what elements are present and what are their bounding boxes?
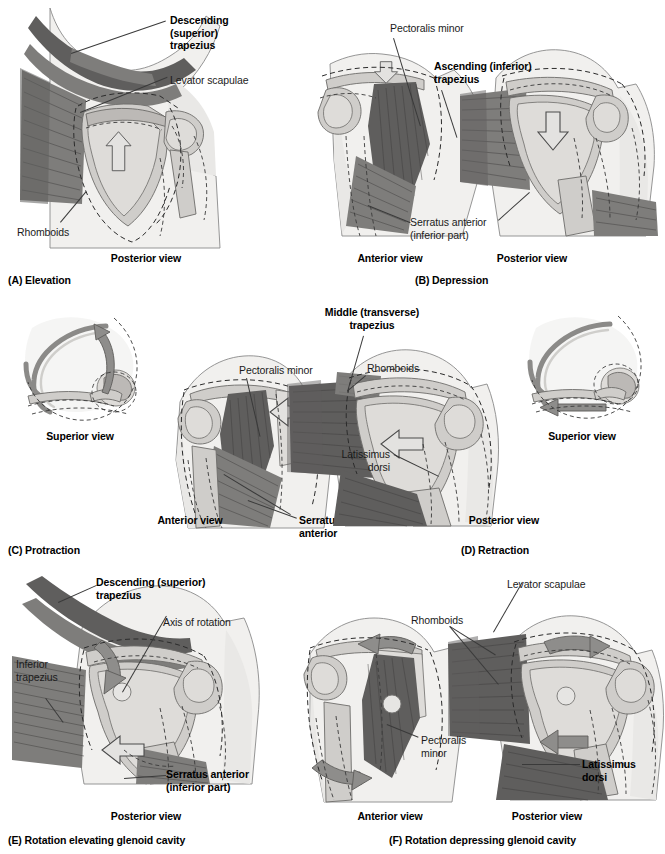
- axis-of-rotation-marker-f-anterior: [383, 695, 401, 713]
- caption-panel-d: (D) Retraction: [461, 544, 529, 556]
- label-axis-of-rotation: Axis of rotation: [163, 616, 231, 629]
- panel-b-depression: Pectoralis minor Ascending (inferior) tr…: [332, 0, 665, 292]
- view-label-posterior-d: Posterior view: [444, 514, 564, 526]
- label-descending-superior-trapezius: Descending (superior) trapezius: [170, 14, 229, 52]
- view-label-posterior-f: Posterior view: [487, 810, 607, 822]
- label-middle-transverse-trapezius: Middle (transverse) trapezius: [272, 306, 472, 331]
- label-inferior-trapezius: Inferior trapezius: [16, 658, 58, 683]
- label-latissimus-dorsi-f: Latissimus dorsi: [582, 758, 636, 783]
- view-label-superior-d: Superior view: [522, 430, 642, 442]
- leader-latissimus-dorsi-f: [522, 764, 580, 765]
- label-rhomboids-f: Rhomboids: [411, 614, 463, 627]
- anatomy-figure: Descending (superior) trapezius Levator …: [0, 0, 665, 854]
- view-label-posterior-a: Posterior view: [86, 252, 206, 264]
- axis-of-rotation-marker-f-posterior: [557, 687, 575, 705]
- panel-a-elevation: Descending (superior) trapezius Levator …: [0, 0, 332, 292]
- label-serratus-anterior-inferior-part-b: Serratus anterior (inferior part): [410, 216, 487, 241]
- view-label-anterior-b: Anterior view: [330, 252, 450, 264]
- caption-panel-f: (F) Rotation depressing glenoid cavity: [389, 834, 576, 846]
- caption-panel-a: (A) Elevation: [8, 274, 71, 286]
- label-descending-superior-trapezius-e: Descending (superior) trapezius: [96, 576, 205, 601]
- label-rhomboids: Rhomboids: [17, 226, 69, 239]
- panel-d-retraction: Posterior view Superior view Middle (tra…: [332, 292, 665, 562]
- caption-panel-b: (B) Depression: [415, 274, 488, 286]
- panel-c-superior-artwork: [10, 310, 150, 435]
- view-label-posterior-e: Posterior view: [86, 810, 206, 822]
- label-rhomboids-d: Rhomboids: [367, 362, 419, 375]
- label-ascending-inferior-trapezius: Ascending (inferior) trapezius: [434, 60, 532, 85]
- caption-panel-c: (C) Protraction: [8, 544, 80, 556]
- panel-d-superior-artwork: [510, 310, 655, 435]
- panel-c-protraction: Superior view: [0, 292, 332, 562]
- view-label-anterior-c: Anterior view: [130, 514, 250, 526]
- panel-f-rotation-depressing: Anterior view: [332, 562, 665, 854]
- label-pectoralis-minor-b: Pectoralis minor: [390, 22, 464, 35]
- caption-panel-e: (E) Rotation elevating glenoid cavity: [8, 834, 185, 846]
- label-serratus-anterior-inferior-part-e: Serratus anterior (inferior part): [166, 768, 249, 793]
- panel-f-anterior-artwork: [280, 610, 475, 805]
- label-latissimus-dorsi-d: Latissimus dorsi: [280, 448, 390, 473]
- view-label-superior-c: Superior view: [20, 430, 140, 442]
- view-label-posterior-b: Posterior view: [472, 252, 592, 264]
- label-levator-scapulae: Levator scapulae: [170, 74, 248, 87]
- label-pectoralis-minor-f: Pectoralis minor: [421, 734, 466, 759]
- view-label-anterior-f: Anterior view: [330, 810, 450, 822]
